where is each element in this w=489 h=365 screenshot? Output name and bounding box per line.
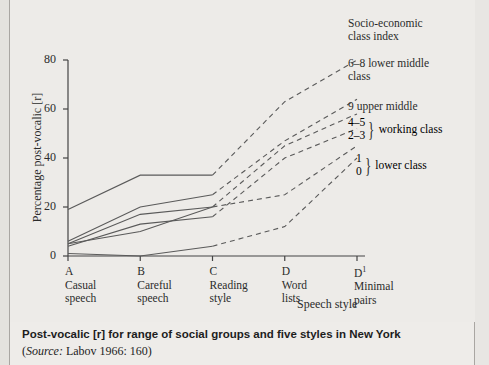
x-tick-code: B	[137, 265, 171, 279]
x-tick-label: CReadingstyle	[210, 265, 248, 306]
caption-main-rest: [r] for range of social groups and five …	[90, 328, 401, 340]
x-tick-label: BCarefulspeech	[137, 265, 171, 306]
x-axis-title: Speech style	[297, 297, 357, 312]
y-tick-label: 20	[30, 199, 56, 214]
legend-entry-lower-class: 1 0 } lower class	[356, 152, 427, 178]
series-dashed-segment	[213, 114, 358, 207]
x-tick-line2: speech	[137, 292, 171, 306]
x-tick-superscript: 1	[362, 265, 366, 274]
x-tick-line2: style	[210, 292, 248, 306]
series-solid-segment	[68, 207, 213, 244]
caption-main-line: Post-vocalic [r] for range of social gro…	[22, 327, 472, 343]
legend-title-line1: Socio-economic	[348, 17, 423, 29]
y-tick-label: 60	[30, 101, 56, 116]
legend-working-num1: 4–5	[348, 116, 365, 129]
y-tick-label: 0	[30, 248, 56, 263]
page-edge-left	[0, 0, 10, 365]
caption-source-label: Source:	[26, 344, 63, 358]
legend-lower-num2: 0	[356, 165, 362, 178]
x-tick-code: D1	[354, 265, 394, 280]
legend-title-line2: class index	[348, 30, 399, 42]
caption-bold-lead: Post-vocalic	[22, 328, 90, 340]
x-tick-label: ACasualspeech	[65, 265, 96, 306]
legend-working-num2: 2–3	[348, 129, 365, 142]
x-tick-line2: speech	[65, 292, 96, 306]
legend-lower-middle-line1: 6–8 lower middle	[348, 57, 429, 69]
caption-source-line: (Source: Labov 1966: 160)	[22, 343, 472, 359]
scanned-page: Percentage post-vocalic [r] 020406080 AC…	[0, 0, 489, 365]
chart-axes	[63, 60, 365, 261]
series-solid-segment	[68, 207, 213, 244]
x-tick-line2: pairs	[354, 294, 394, 308]
series-dashed-segment	[213, 99, 358, 195]
x-tick-label: D1Minimalpairs	[354, 265, 394, 308]
series-solid-segment	[68, 195, 213, 242]
curly-brace-icon: }	[365, 156, 371, 175]
legend-lower-label: lower class	[375, 159, 426, 171]
legend-lower-num1: 1	[356, 152, 362, 165]
x-tick-code: A	[65, 265, 96, 279]
series-dashed-segment	[213, 158, 358, 246]
y-tick-label: 80	[30, 52, 56, 67]
legend-working-label: working class	[379, 123, 443, 135]
x-tick-line1: Reading	[210, 279, 248, 293]
x-tick-line1: Minimal	[354, 280, 394, 294]
legend-entry-upper-middle: 9 upper middle	[348, 100, 418, 113]
figure-caption: Post-vocalic [r] for range of social gro…	[22, 327, 472, 359]
x-tick-code: D	[282, 265, 307, 279]
chart-series-lines	[68, 60, 357, 256]
curly-brace-icon: }	[368, 120, 374, 139]
legend-title: Socio-economicclass index	[348, 17, 423, 43]
caption-source-rest: Labov 1966: 160)	[63, 344, 152, 358]
figure-panel: Percentage post-vocalic [r] 020406080 AC…	[10, 0, 475, 322]
series-solid-segment	[68, 175, 213, 209]
x-tick-line1: Word	[282, 279, 307, 293]
legend-working-numbers: 4–5 2–3	[348, 116, 365, 142]
x-tick-line1: Careful	[137, 279, 171, 293]
x-tick-line1: Casual	[65, 279, 96, 293]
series-solid-segment	[68, 246, 213, 256]
legend-entry-working-class: 4–5 2–3 } working class	[348, 116, 442, 142]
y-tick-label: 40	[30, 150, 56, 165]
legend-lower-middle-line2: class	[348, 70, 370, 82]
legend-entry-lower-middle: 6–8 lower middleclass	[348, 57, 429, 83]
page-edge-right	[474, 0, 489, 365]
x-tick-code: C	[210, 265, 248, 279]
series-dashed-segment	[213, 146, 358, 207]
legend-lower-numbers: 1 0	[356, 152, 362, 178]
